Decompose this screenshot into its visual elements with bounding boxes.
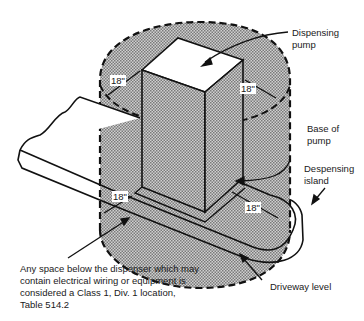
dimension-bottom-right: 18" <box>245 202 261 213</box>
dimension-top-right: 18" <box>240 83 256 94</box>
label-dispensing-pump: Dispensing pump <box>292 27 339 51</box>
label-dispensing-island: Despensing island <box>304 163 354 187</box>
dimension-bottom-left: 18" <box>112 191 128 202</box>
label-class1-div1-note: Any space below the dispenser which may … <box>20 263 199 311</box>
dimension-top-left: 18" <box>110 75 126 86</box>
label-base-of-pump: Base of pump <box>307 123 339 147</box>
label-driveway-level: Driveway level <box>270 281 331 293</box>
